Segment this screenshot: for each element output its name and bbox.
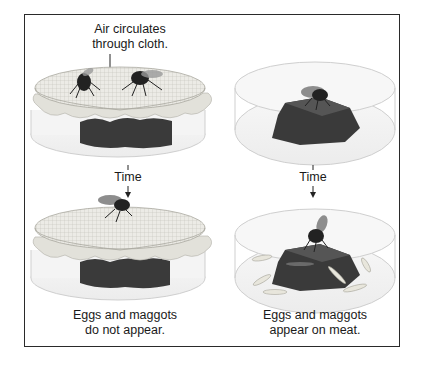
open-jar-top — [235, 62, 395, 165]
covered-jar-bottom — [31, 195, 212, 300]
result-covered-line-1: Eggs and maggots — [55, 308, 195, 323]
result-open-line-1: Eggs and maggots — [245, 308, 385, 323]
open-jar-bottom — [235, 209, 395, 313]
covered-jar-top — [31, 66, 212, 157]
result-covered: Eggs and maggots do not appear. — [55, 308, 195, 338]
time-label-left: Time — [108, 170, 148, 184]
result-covered-line-2: do not appear. — [55, 323, 195, 338]
time-label-right: Time — [293, 170, 333, 184]
result-open-line-2: appear on meat. — [245, 323, 385, 338]
result-open: Eggs and maggots appear on meat. — [245, 308, 385, 338]
